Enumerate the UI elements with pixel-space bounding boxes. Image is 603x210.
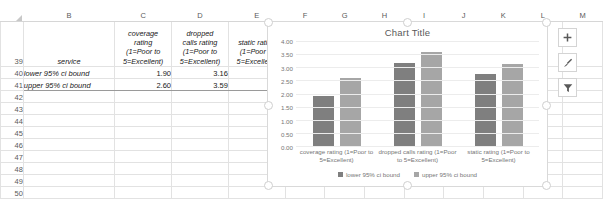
cell-E50[interactable] xyxy=(228,187,285,199)
column-header-m[interactable]: M xyxy=(563,10,603,22)
chart-bar[interactable] xyxy=(475,74,496,146)
row-header-49[interactable]: 49 xyxy=(1,175,24,187)
chart-elements-button[interactable] xyxy=(558,28,577,47)
chart-handle-top-right[interactable] xyxy=(542,18,551,27)
cell-D48[interactable] xyxy=(172,163,229,175)
cell-C42[interactable] xyxy=(115,91,172,103)
y-axis-tick-label: 2.00 xyxy=(281,91,293,98)
cell-D46[interactable] xyxy=(172,139,229,151)
chart-bar[interactable] xyxy=(421,52,442,146)
cell-C41[interactable]: 2.60 xyxy=(115,79,172,91)
cell-D44[interactable] xyxy=(172,115,229,127)
cell-B42[interactable] xyxy=(23,91,114,103)
cell-C40[interactable]: 1.90 xyxy=(115,67,172,79)
row-header-48[interactable]: 48 xyxy=(1,163,24,175)
cell-B46[interactable] xyxy=(23,139,114,151)
chart-gridline xyxy=(296,107,539,108)
chart-handle-bottom-center[interactable] xyxy=(403,181,412,190)
funnel-icon xyxy=(563,83,573,93)
cell-C39[interactable]: coveragerating(1=Poor to5=Excellent) xyxy=(115,22,172,67)
row-header-41[interactable]: 41 xyxy=(1,79,24,91)
row-header-44[interactable]: 44 xyxy=(1,115,24,127)
cell-C50[interactable] xyxy=(115,187,172,199)
chart-legend-item[interactable]: lower 95% ci bound xyxy=(338,171,400,178)
cell-M50[interactable] xyxy=(563,187,603,199)
column-header-b[interactable]: B xyxy=(23,10,114,22)
cell-C49[interactable] xyxy=(115,175,172,187)
chart-legend-item[interactable]: upper 95% ci bound xyxy=(414,171,477,178)
cell-B44[interactable] xyxy=(23,115,114,127)
cell-C44[interactable] xyxy=(115,115,172,127)
cell-B50[interactable] xyxy=(23,187,114,199)
row-header-50[interactable]: 50 xyxy=(1,187,24,199)
chart-bar[interactable] xyxy=(313,96,334,146)
row-header-42[interactable]: 42 xyxy=(1,91,24,103)
cell-D41[interactable]: 3.59 xyxy=(172,79,229,91)
row-header-45[interactable]: 45 xyxy=(1,127,24,139)
legend-swatch-icon xyxy=(414,172,419,177)
row-header-46[interactable]: 46 xyxy=(1,139,24,151)
cell-B41[interactable]: upper 95% ci bound xyxy=(23,79,114,91)
cell-J50[interactable] xyxy=(444,187,484,199)
cell-M43[interactable] xyxy=(563,103,603,115)
chart-handle-middle-right[interactable] xyxy=(542,101,551,110)
chart-legend[interactable]: lower 95% ci boundupper 95% ci bound xyxy=(268,171,547,178)
cell-F50[interactable] xyxy=(285,187,325,199)
row-header-39[interactable]: 39 xyxy=(1,22,24,67)
cell-C47[interactable] xyxy=(115,151,172,163)
cell-D45[interactable] xyxy=(172,127,229,139)
chart-gridline xyxy=(296,67,539,68)
cell-M45[interactable] xyxy=(563,127,603,139)
cell-M48[interactable] xyxy=(563,163,603,175)
column-header-c[interactable]: C xyxy=(115,10,172,22)
column-header-f[interactable]: F xyxy=(285,10,325,22)
cell-B45[interactable] xyxy=(23,127,114,139)
cell-D40[interactable]: 3.16 xyxy=(172,67,229,79)
cell-B48[interactable] xyxy=(23,163,114,175)
column-header-g[interactable]: G xyxy=(325,10,365,22)
column-header-j[interactable]: J xyxy=(444,10,484,22)
cell-M46[interactable] xyxy=(563,139,603,151)
legend-label: lower 95% ci bound xyxy=(346,171,400,178)
chart-bar[interactable] xyxy=(340,78,361,146)
cell-G50[interactable] xyxy=(325,187,365,199)
cell-B39[interactable]: service xyxy=(23,22,114,67)
cell-B40[interactable]: lower 95% ci bound xyxy=(23,67,114,79)
cell-D39[interactable]: droppedcalls rating(1=Poor to5=Excellent… xyxy=(172,22,229,67)
cell-B49[interactable] xyxy=(23,175,114,187)
row-header-47[interactable]: 47 xyxy=(1,151,24,163)
cell-M44[interactable] xyxy=(563,115,603,127)
chart-handle-middle-left[interactable] xyxy=(264,101,273,110)
cell-D50[interactable] xyxy=(172,187,229,199)
chart-handle-top-left[interactable] xyxy=(264,18,273,27)
cell-D42[interactable] xyxy=(172,91,229,103)
chart-title[interactable]: Chart Title xyxy=(268,27,547,38)
column-header-k[interactable]: K xyxy=(483,10,523,22)
chart-filters-button[interactable] xyxy=(558,78,577,97)
chart-handle-bottom-right[interactable] xyxy=(542,181,551,190)
row-header-40[interactable]: 40 xyxy=(1,67,24,79)
select-all-corner[interactable] xyxy=(1,10,24,22)
row-header-43[interactable]: 43 xyxy=(1,103,24,115)
cell-D43[interactable] xyxy=(172,103,229,115)
cell-D47[interactable] xyxy=(172,151,229,163)
chart-handle-bottom-left[interactable] xyxy=(264,181,273,190)
cell-C43[interactable] xyxy=(115,103,172,115)
cell-C48[interactable] xyxy=(115,163,172,175)
column-header-h[interactable]: H xyxy=(365,10,405,22)
cell-M47[interactable] xyxy=(563,151,603,163)
cell-B43[interactable] xyxy=(23,103,114,115)
column-header-d[interactable]: D xyxy=(172,10,229,22)
cell-C45[interactable] xyxy=(115,127,172,139)
column-header-e[interactable]: E xyxy=(228,10,285,22)
chart-handle-top-center[interactable] xyxy=(403,18,412,27)
y-axis-tick-label: 3.50 xyxy=(281,51,293,58)
cell-D49[interactable] xyxy=(172,175,229,187)
chart-styles-button[interactable] xyxy=(558,53,577,72)
cell-K50[interactable] xyxy=(483,187,523,199)
cell-H50[interactable] xyxy=(365,187,405,199)
cell-M49[interactable] xyxy=(563,175,603,187)
cell-C46[interactable] xyxy=(115,139,172,151)
embedded-chart[interactable]: Chart Title 4.003.503.002.502.001.501.00… xyxy=(267,21,548,187)
cell-B47[interactable] xyxy=(23,151,114,163)
